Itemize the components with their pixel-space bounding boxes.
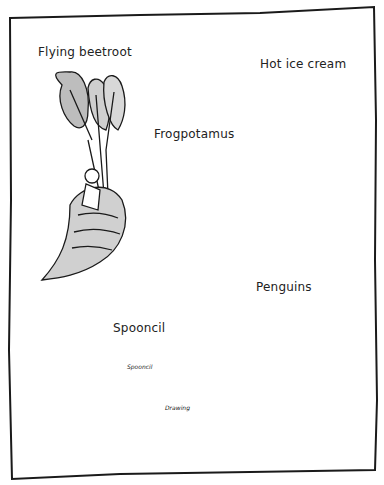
annotation-drawing: Drawing <box>165 404 190 411</box>
beetroot-drawing <box>42 72 126 280</box>
annotation-spooncil: Spooncil <box>127 363 152 370</box>
label-frogpotamus: Frogpotamus <box>154 127 234 141</box>
label-hot-ice-cream: Hot ice cream <box>260 57 346 71</box>
label-spooncil: Spooncil <box>113 321 165 335</box>
illustration-canvas <box>0 0 384 485</box>
label-penguins: Penguins <box>256 280 312 294</box>
label-flying-beetroot: Flying beetroot <box>38 45 132 59</box>
